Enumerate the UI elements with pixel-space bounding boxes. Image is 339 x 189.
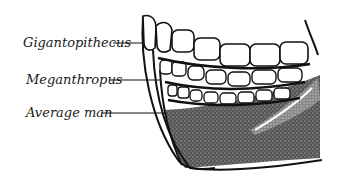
- jaw-illustration: [0, 0, 339, 189]
